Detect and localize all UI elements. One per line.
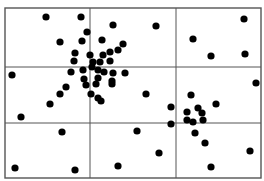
data-point <box>78 37 85 44</box>
data-point <box>98 36 105 43</box>
data-point <box>100 68 107 75</box>
scatter-grid-diagram <box>0 0 264 181</box>
data-point <box>240 15 247 22</box>
data-point <box>119 40 126 47</box>
plot-frame <box>5 8 261 178</box>
scatter-plot <box>0 0 264 181</box>
data-point <box>189 35 196 42</box>
data-point <box>198 109 205 116</box>
data-point <box>58 128 65 135</box>
data-point <box>87 90 94 97</box>
data-point <box>241 50 248 57</box>
data-point <box>187 91 194 98</box>
data-point <box>11 164 18 171</box>
data-point <box>71 49 78 56</box>
data-point <box>114 162 121 169</box>
data-point <box>121 69 128 76</box>
data-point <box>96 58 103 65</box>
data-point <box>212 100 219 107</box>
data-point <box>108 80 115 87</box>
data-point <box>70 57 77 64</box>
data-point <box>201 139 208 146</box>
data-point <box>86 51 93 58</box>
data-point <box>99 51 106 58</box>
data-point <box>67 68 74 75</box>
data-point <box>142 90 149 97</box>
data-point <box>167 103 174 110</box>
data-point <box>189 118 196 125</box>
data-point <box>207 52 214 59</box>
data-point <box>92 80 99 87</box>
data-point <box>8 71 15 78</box>
data-point <box>183 108 190 115</box>
grid-lines <box>5 8 261 178</box>
data-point <box>82 81 89 88</box>
data-point <box>199 116 206 123</box>
data-point <box>62 83 69 90</box>
data-point <box>77 13 84 20</box>
data-point <box>46 100 53 107</box>
data-points <box>8 13 259 173</box>
data-point <box>191 129 198 136</box>
data-point <box>97 97 104 104</box>
data-point <box>109 21 116 28</box>
data-point <box>133 127 140 134</box>
data-point <box>152 22 159 29</box>
data-point <box>42 13 49 20</box>
data-point <box>207 163 214 170</box>
data-point <box>17 113 24 120</box>
data-point <box>83 28 90 35</box>
data-point <box>56 38 63 45</box>
data-point <box>106 48 113 55</box>
data-point <box>109 69 116 76</box>
data-point <box>79 66 86 73</box>
data-point <box>167 120 174 127</box>
data-point <box>114 46 121 53</box>
data-point <box>56 90 63 97</box>
data-point <box>106 57 113 64</box>
data-point <box>246 147 253 154</box>
data-point <box>71 166 78 173</box>
data-point <box>155 149 162 156</box>
data-point <box>252 79 259 86</box>
